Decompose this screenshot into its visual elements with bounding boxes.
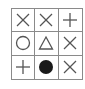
grid-cell-r1-c1 [12,9,35,32]
grid-cell-r2-c3 [59,32,82,55]
grid-cell-r3-c3 [59,56,82,79]
grid-cell-r3-c1 [12,56,35,79]
cross-icon [15,12,31,28]
circle-icon [15,35,31,51]
plus-icon [15,59,31,75]
symbol-grid [11,8,83,80]
cross-icon [62,59,78,75]
triangle-icon [38,35,54,51]
grid-cell-r1-c2 [35,9,58,32]
grid-cell-r2-c2 [35,32,58,55]
grid-cell-r2-c1 [12,32,35,55]
grid-cell-r3-c2 [35,56,58,79]
cross-icon [62,35,78,51]
plus-icon [62,12,78,28]
filled-circle-icon [38,59,54,75]
grid-cell-r1-c3 [59,9,82,32]
cross-icon [38,12,54,28]
